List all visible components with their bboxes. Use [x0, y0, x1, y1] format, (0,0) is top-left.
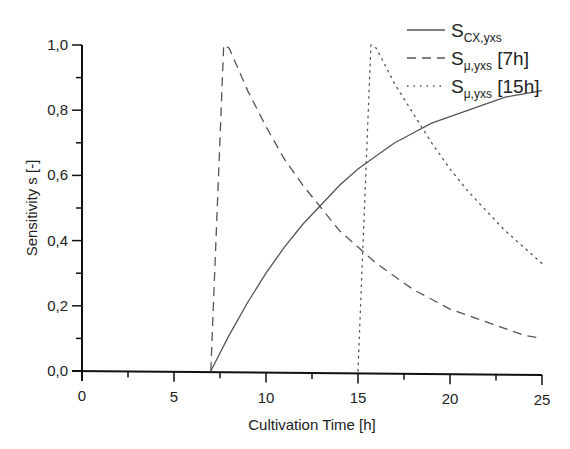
y-tick-label: 0,2 — [47, 297, 68, 314]
x-tick-label: 15 — [350, 389, 367, 406]
x-axis-title: Cultivation Time [h] — [248, 416, 376, 433]
y-axis-title: Sensitivity s [-] — [23, 160, 40, 257]
legend-label: Sμ,yxs [7h] — [451, 48, 529, 73]
x-tick-label: 25 — [534, 391, 551, 408]
legend-label: SCX,yxs — [451, 20, 502, 45]
y-tick-label: 0,4 — [47, 232, 68, 249]
sensitivity-chart: 0,00,20,40,60,81,00510152025 Cultivation… — [0, 0, 570, 449]
y-tick-label: 0,8 — [47, 101, 68, 118]
x-axis-line — [72, 371, 542, 375]
series-line-solid — [211, 91, 542, 371]
y-tick-label: 0,6 — [47, 166, 68, 183]
y-tick-label: 0,0 — [47, 362, 68, 379]
y-tick-label: 1,0 — [47, 36, 68, 53]
x-tick-label: 20 — [442, 390, 459, 407]
x-tick-label: 10 — [258, 389, 275, 406]
legend-label: Sμ,yxs [15h] — [451, 76, 539, 101]
x-tick-label: 5 — [170, 388, 178, 405]
x-tick-label: 0 — [78, 387, 86, 404]
legend: SCX,yxsSμ,yxs [7h]Sμ,yxs [15h] — [407, 20, 539, 101]
